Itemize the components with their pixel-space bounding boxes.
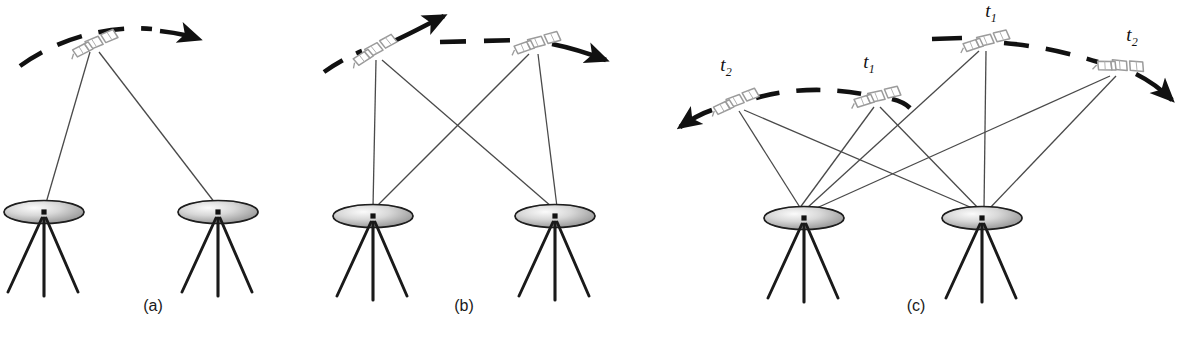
- panel-caption-a: (a): [143, 297, 163, 315]
- time-label-c-upper-t1: t1: [985, 0, 996, 26]
- satellite-tracking-diagram: [0, 0, 1189, 342]
- panel-caption-c: (c): [907, 297, 926, 315]
- figure-background: [0, 0, 1189, 342]
- time-label-c-lower-t2: t2: [720, 54, 731, 80]
- time-label-c-lower-t1: t1: [863, 51, 874, 77]
- panel-caption-b: (b): [454, 297, 474, 315]
- time-label-c-upper-t2: t2: [1126, 24, 1137, 50]
